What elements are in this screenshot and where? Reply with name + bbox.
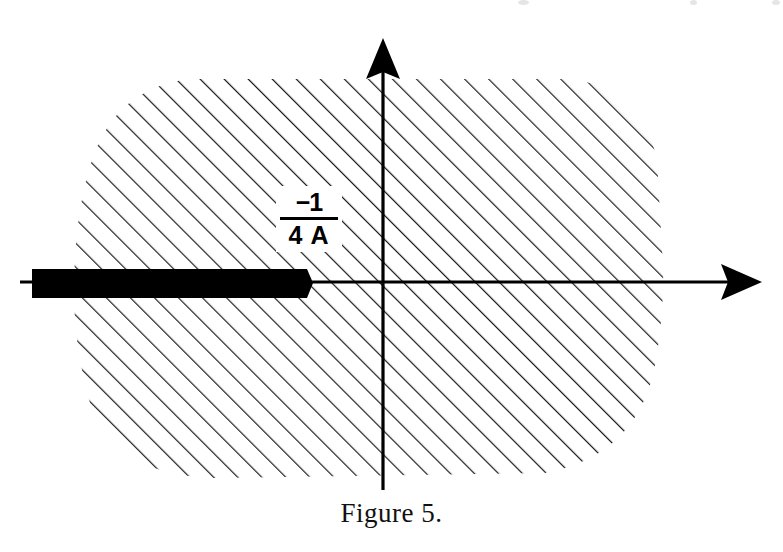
- fraction-numerator: −1: [296, 190, 323, 217]
- fraction-denominator: 4 A: [289, 220, 330, 248]
- figure-caption: Figure 5.: [0, 498, 783, 529]
- figure-drawing: [0, 0, 783, 552]
- fraction-label: −1 4 A: [276, 186, 342, 252]
- branch-cut-bar: [32, 269, 313, 298]
- figure-5-container: −1 4 A Figure 5.: [0, 0, 783, 552]
